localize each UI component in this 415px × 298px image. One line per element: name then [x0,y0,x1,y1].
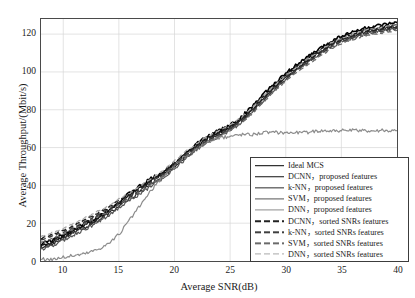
legend-label: DCNN，proposed features [288,172,377,181]
legend-swatch [254,249,285,260]
legend-item[interactable]: DCNN，sorted SNRs features [254,215,406,226]
y-axis-label: Average Throughput/(Mbit/s) [17,66,28,226]
legend-item[interactable]: k-NN，proposed features [254,182,406,193]
y-tick-label: 120 [6,28,36,38]
legend-swatch [254,238,285,249]
legend-item[interactable]: SVM，sorted SNRs features [254,238,406,249]
x-tick-label: 35 [337,265,347,275]
x-tick-label: 40 [393,265,403,275]
legend: Ideal MCSDCNN，proposed featuresk-NN，prop… [250,157,409,262]
y-tick-label: 0 [6,257,36,267]
legend-item[interactable]: k-NN，sorted SNRs features [254,227,406,238]
legend-label: DNN，sorted SNRs features [288,250,383,259]
legend-label: DNN，proposed features [288,205,372,214]
legend-item[interactable]: SVM，proposed features [254,193,406,204]
legend-item[interactable]: DNN，sorted SNRs features [254,249,406,260]
x-tick-label: 30 [281,265,291,275]
legend-swatch [254,204,285,215]
x-tick-label: 20 [170,265,180,275]
legend-label: k-NN，proposed features [288,183,373,192]
x-axis-label: Average SNR(dB) [40,281,398,292]
legend-swatch [254,227,285,238]
x-tick-label: 25 [225,265,235,275]
legend-swatch [254,193,285,204]
legend-label: Ideal MCS [288,161,324,170]
legend-swatch [254,171,285,182]
legend-item[interactable]: DNN，proposed features [254,204,406,215]
legend-label: SVM，proposed features [288,194,372,203]
legend-label: DCNN，sorted SNRs features [288,217,388,226]
x-tick-label: 10 [58,265,68,275]
legend-label: SVM，sorted SNRs features [288,239,383,248]
chart-figure: 10152025303540 020406080100120 Average S… [0,0,415,298]
x-tick-label: 15 [114,265,124,275]
legend-item[interactable]: DCNN，proposed features [254,171,406,182]
legend-swatch [254,216,285,227]
legend-swatch [254,160,285,171]
legend-label: k-NN，sorted SNRs features [288,228,384,237]
legend-item[interactable]: Ideal MCS [254,160,406,171]
legend-swatch [254,182,285,193]
